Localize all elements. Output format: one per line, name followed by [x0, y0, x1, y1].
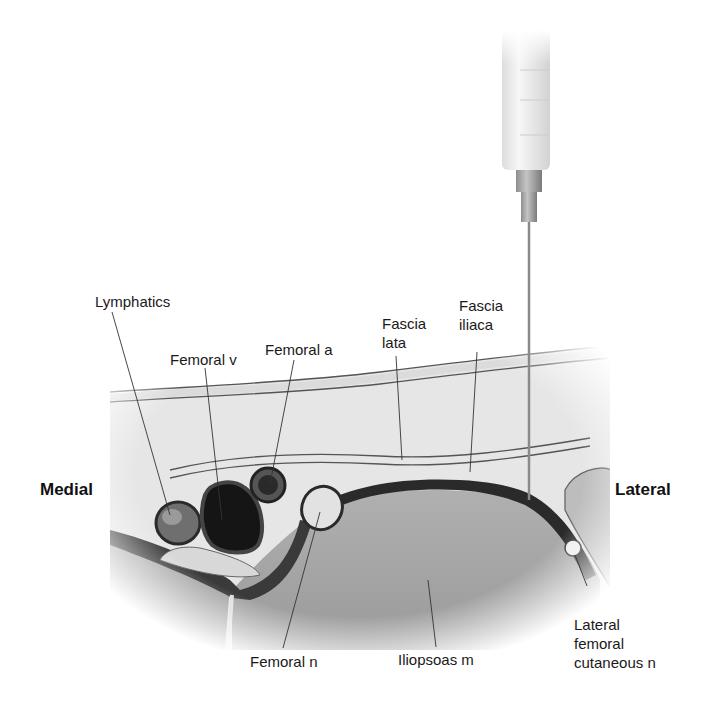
- label-medial: Medial: [40, 480, 93, 499]
- label-lateral: Lateral: [615, 480, 671, 499]
- label-lymphatics: Lymphatics: [95, 292, 170, 311]
- label-lfcn-line1: Lateral: [574, 615, 620, 634]
- diagram-canvas: Lymphatics Femoral v Femoral a Fascia la…: [0, 0, 715, 710]
- label-fascia-lata-line1: Fascia: [382, 314, 426, 333]
- label-femoral-n: Femoral n: [250, 652, 318, 671]
- tissue-block: [110, 346, 612, 650]
- label-fascia-iliaca-line1: Fascia: [459, 296, 503, 315]
- label-iliopsoas-m: Iliopsoas m: [398, 650, 474, 669]
- label-femoral-v: Femoral v: [170, 350, 237, 369]
- lfcn-shape: [565, 540, 581, 556]
- label-lfcn-line3: cutaneous n: [574, 653, 656, 672]
- cross-section-illustration: [0, 0, 715, 710]
- label-femoral-a: Femoral a: [265, 340, 333, 359]
- label-lfcn-line2: femoral: [574, 634, 624, 653]
- label-fascia-lata-line2: lata: [382, 333, 406, 352]
- label-fascia-iliaca-line2: iliaca: [459, 315, 493, 334]
